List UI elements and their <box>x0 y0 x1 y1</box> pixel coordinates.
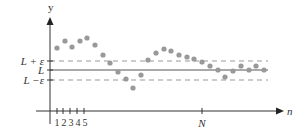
sequence-point <box>54 45 59 50</box>
sequence-point <box>161 46 166 51</box>
y-axis-arrow-icon <box>47 17 54 25</box>
sequence-point <box>130 85 135 90</box>
sequence-point <box>215 67 220 72</box>
sequence-point <box>222 74 227 79</box>
x-tick-label-3: 3 <box>69 117 74 128</box>
sequence-convergence-diagram: y n L + ε L L −ε 1 2 3 4 5 N <box>0 0 302 139</box>
lower-bound-label: L −ε <box>23 74 45 86</box>
sequence-point <box>191 56 196 61</box>
sequence-point <box>253 63 258 68</box>
sequence-points <box>54 35 266 90</box>
sequence-point <box>207 63 212 68</box>
x-tick-label-1: 1 <box>55 117 60 128</box>
sequence-point <box>176 52 181 57</box>
sequence-point <box>115 69 120 74</box>
sequence-point <box>246 67 251 72</box>
x-tick-label-5: 5 <box>83 117 88 128</box>
sequence-point <box>230 68 235 73</box>
x-tick-label-2: 2 <box>62 117 67 128</box>
sequence-point <box>84 35 89 40</box>
sequence-point <box>62 38 67 43</box>
sequence-point <box>138 72 143 77</box>
sequence-point <box>153 50 158 55</box>
sequence-point <box>123 76 128 81</box>
sequence-point <box>145 57 150 62</box>
sequence-point <box>199 59 204 64</box>
x-axis-arrow-icon <box>276 108 284 115</box>
sequence-point <box>100 52 105 57</box>
x-tick-label-4: 4 <box>76 117 81 128</box>
sequence-point <box>184 54 189 59</box>
x-tick-label-n: N <box>197 117 206 129</box>
sequence-point <box>77 38 82 43</box>
sequence-point <box>238 63 243 68</box>
sequence-point <box>107 60 112 65</box>
sequence-point <box>168 48 173 53</box>
x-axis-label: n <box>287 105 293 117</box>
sequence-point <box>92 42 97 47</box>
sequence-point <box>69 44 74 49</box>
y-axis-label: y <box>48 1 54 13</box>
sequence-point <box>261 67 266 72</box>
